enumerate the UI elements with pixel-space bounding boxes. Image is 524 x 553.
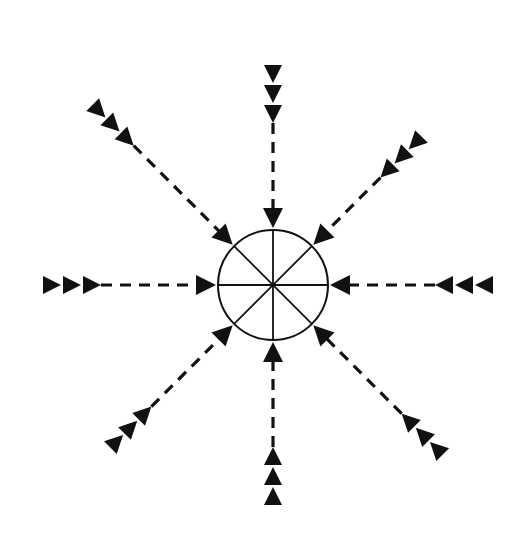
arrow-east — [330, 275, 493, 295]
dashed-shaft — [151, 335, 222, 406]
dashed-shaft — [323, 335, 401, 413]
dashed-shaft — [323, 178, 380, 235]
triangle-marker-icon — [264, 105, 282, 123]
triangle-marker-icon — [409, 130, 428, 149]
triangle-marker-icon — [104, 435, 123, 454]
triangle-marker-icon — [43, 276, 61, 294]
triangle-marker-icon — [264, 65, 282, 83]
triangle-marker-icon — [455, 276, 473, 294]
triangle-marker-icon — [264, 85, 282, 103]
triangle-marker-icon — [264, 447, 282, 465]
triangle-marker-icon — [86, 98, 105, 117]
triangle-marker-icon — [264, 467, 282, 485]
arrowhead-icon — [263, 342, 283, 362]
triangle-marker-icon — [264, 487, 282, 505]
triangle-marker-icon — [63, 276, 81, 294]
triangle-marker-icon — [435, 276, 453, 294]
arrow-west — [43, 275, 216, 295]
arrow-north-east — [313, 130, 428, 245]
triangle-marker-icon — [430, 442, 449, 461]
arrow-south-east — [313, 325, 449, 461]
arrowhead-icon — [313, 223, 334, 244]
arrowhead-icon — [211, 325, 232, 346]
central-circle — [218, 230, 328, 340]
convergence-diagram — [0, 0, 524, 553]
dashed-shaft — [134, 146, 223, 235]
triangle-marker-icon — [83, 276, 101, 294]
arrow-south-west — [104, 325, 233, 454]
arrow-south — [263, 342, 283, 505]
arrowhead-icon — [196, 275, 216, 295]
arrow-north — [263, 65, 283, 228]
arrowhead-icon — [263, 208, 283, 228]
arrowhead-icon — [330, 275, 350, 295]
arrow-north-west — [86, 98, 232, 244]
triangle-marker-icon — [475, 276, 493, 294]
